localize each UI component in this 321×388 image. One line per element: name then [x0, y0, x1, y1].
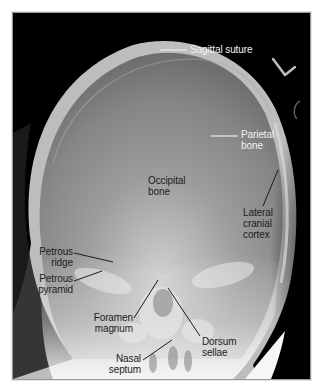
label-text: septum	[96, 364, 141, 375]
left-side-marker-icon	[273, 59, 295, 75]
label-parietal-bone: Parietal bone	[241, 129, 274, 151]
label-text: Dorsum	[202, 336, 236, 347]
label-lateral-cranial-cortex: Lateral cranial cortex	[243, 207, 273, 240]
label-sagittal-suture: Sagittal suture	[190, 44, 252, 55]
label-text: bone	[241, 140, 274, 151]
label-foramen-magnum: Foramen magnum	[86, 312, 133, 334]
label-text: sellae	[202, 347, 236, 358]
label-petrous-pyramid: Petrous pyramid	[28, 273, 73, 295]
label-text: cranial	[243, 218, 273, 229]
label-text: magnum	[86, 323, 133, 334]
label-text: Lateral	[243, 207, 273, 218]
label-text: ridge	[28, 257, 73, 268]
label-text: Occipital	[148, 175, 185, 186]
label-text: Nasal	[96, 353, 141, 364]
label-text: Sagittal suture	[190, 44, 252, 55]
label-petrous-ridge: Petrous ridge	[28, 246, 73, 268]
label-text: Parietal	[241, 129, 274, 140]
label-text: Foramen	[86, 312, 133, 323]
label-text: bone	[148, 186, 185, 197]
label-nasal-septum: Nasal septum	[96, 353, 141, 375]
label-dorsum-sellae: Dorsum sellae	[202, 336, 236, 358]
label-text: cortex	[243, 229, 273, 240]
label-text: Petrous	[28, 273, 73, 284]
label-text: pyramid	[28, 284, 73, 295]
label-text: Petrous	[28, 246, 73, 257]
label-occipital-bone: Occipital bone	[148, 175, 185, 197]
